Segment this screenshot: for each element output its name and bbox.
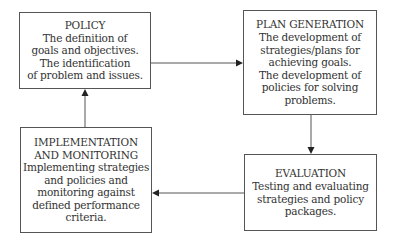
plan-generation-title: PLAN GENERATION: [256, 18, 364, 31]
policy-text-line: The definition of: [43, 32, 127, 45]
implementation-text-line: defined performance: [32, 199, 140, 212]
arrow-implementation-to-policy: [82, 89, 89, 127]
implementation-text-line: Implementing strategies: [23, 161, 149, 174]
implementation-text-line: monitoring against: [37, 186, 135, 199]
policy-text-line: The identification: [40, 57, 130, 70]
evaluation-text-line: packages.: [285, 205, 336, 218]
plan-generation-box: PLAN GENERATION The development of strat…: [243, 10, 377, 115]
evaluation-title: EVALUATION: [275, 167, 346, 180]
arrow-evaluation-to-implementation: [152, 190, 244, 197]
plan-generation-text-line: achieving goals.: [269, 56, 352, 69]
plan-generation-text-line: The development of: [259, 69, 361, 82]
implementation-box: IMPLEMENTATION AND MONITORING Implementi…: [20, 127, 152, 233]
implementation-title: AND MONITORING: [34, 149, 138, 162]
policy-title: POLICY: [65, 19, 106, 32]
plan-generation-text-line: problems.: [284, 94, 335, 107]
evaluation-text-line: strategies and policy: [257, 193, 364, 206]
implementation-text-line: criteria.: [66, 211, 107, 224]
policy-box: POLICY The definition of goals and objec…: [19, 12, 151, 89]
plan-generation-text-line: strategies/plans for: [260, 44, 360, 57]
evaluation-text-line: Testing and evaluating: [252, 180, 369, 193]
evaluation-box: EVALUATION Testing and evaluating strate…: [244, 154, 377, 231]
plan-generation-text-line: policies for solving: [262, 81, 358, 94]
policy-text-line: goals and objectives.: [31, 44, 138, 57]
arrow-plan-to-evaluation: [308, 115, 315, 154]
plan-generation-text-line: The development of: [259, 31, 361, 44]
policy-text-line: of problem and issues.: [27, 69, 143, 82]
arrow-policy-to-plan: [151, 60, 243, 67]
implementation-text-line: and policies and: [44, 174, 128, 187]
implementation-title: IMPLEMENTATION: [34, 136, 138, 149]
